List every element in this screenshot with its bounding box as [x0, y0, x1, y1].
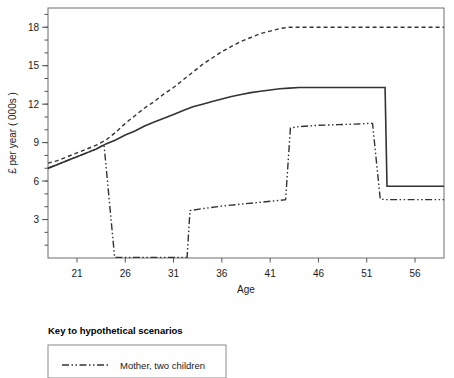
y-axis-tick-label: 3: [33, 214, 39, 225]
y-axis-tick-label: 6: [33, 176, 39, 187]
x-axis-tick-label: 36: [216, 268, 228, 279]
y-axis-tick-label: 15: [28, 60, 40, 71]
legend-entry-label: Mother, two children: [120, 360, 205, 371]
chart-canvas: 3691215182126313641465156Age£ per year (…: [0, 0, 454, 378]
y-axis-tick-label: 18: [28, 22, 40, 33]
y-axis-tick-label: 9: [33, 137, 39, 148]
x-axis-tick-label: 31: [168, 268, 180, 279]
x-axis-tick-label: 41: [265, 268, 277, 279]
y-axis-title: £ per year ( 000s ): [7, 92, 18, 174]
y-axis-tick-label: 12: [28, 99, 40, 110]
chart-figure: 3691215182126313641465156Age£ per year (…: [0, 0, 454, 378]
x-axis-tick-label: 21: [71, 268, 83, 279]
legend-title: Key to hypothetical scenarios: [48, 325, 183, 336]
series-line-solid: [48, 87, 444, 186]
plot-frame: [48, 8, 444, 258]
x-axis-tick-label: 56: [409, 268, 421, 279]
x-axis-tick-label: 46: [313, 268, 325, 279]
x-axis-title: Age: [237, 284, 255, 295]
x-axis-tick-label: 51: [361, 268, 373, 279]
x-axis-tick-label: 26: [120, 268, 132, 279]
